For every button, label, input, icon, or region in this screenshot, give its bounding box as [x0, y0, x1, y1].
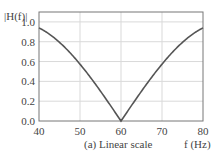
chart: 0.00.20.40.60.81.0 4050607080 |H(f)| f (… — [0, 0, 219, 159]
x-tick-label: 70 — [157, 125, 169, 137]
grid — [39, 12, 203, 121]
y-tick-label: 0.8 — [21, 36, 35, 48]
x-axis-label: f (Hz) — [184, 138, 211, 151]
x-axis-ticks: 4050607080 — [34, 125, 210, 137]
x-tick-label: 60 — [116, 125, 128, 137]
chart-caption: (a) Linear scale — [84, 138, 153, 151]
y-axis-ticks: 0.00.20.40.60.81.0 — [21, 16, 35, 127]
x-tick-label: 80 — [198, 125, 210, 137]
x-tick-label: 50 — [75, 125, 87, 137]
y-tick-label: 0.2 — [21, 95, 35, 107]
y-tick-label: 0.6 — [21, 56, 35, 68]
y-axis-label: |H(f)| — [4, 10, 27, 23]
x-tick-label: 40 — [34, 125, 46, 137]
y-tick-label: 0.4 — [21, 75, 35, 87]
